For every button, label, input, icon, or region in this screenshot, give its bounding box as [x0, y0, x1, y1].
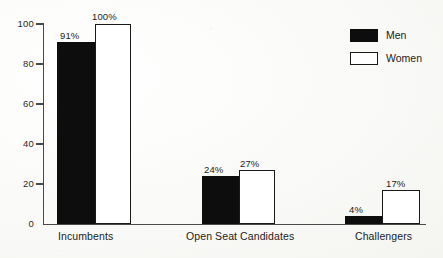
scan-speckle [300, 120, 302, 121]
y-tick-label: 40 [23, 138, 34, 149]
legend-swatch-women-icon [350, 52, 378, 65]
bar-chart: 100 80 60 40 20 0 91% 100% Incumbents 24… [0, 0, 443, 258]
bar-value-incumbents-women: 100% [92, 11, 117, 22]
scan-speckle [210, 28, 212, 30]
y-tick-label: 60 [23, 98, 34, 109]
y-tick-mark [36, 183, 44, 184]
legend-item-men[interactable]: Men [350, 28, 422, 42]
x-axis-line [43, 224, 426, 225]
y-axis-line [43, 23, 44, 225]
category-label-challengers: Challengers [355, 230, 412, 242]
bar-value-open-seat-women: 27% [240, 158, 259, 169]
y-tick-label: 20 [23, 178, 34, 189]
bar-incumbents-men[interactable] [57, 42, 95, 224]
bar-incumbents-women[interactable] [95, 24, 131, 224]
bar-challengers-men[interactable] [345, 216, 382, 224]
bar-value-open-seat-men: 24% [204, 164, 223, 175]
y-tick-mark [36, 143, 44, 144]
bar-value-challengers-men: 4% [349, 204, 363, 215]
legend-swatch-men-icon [350, 29, 378, 42]
category-label-incumbents: Incumbents [58, 230, 113, 242]
legend: Men Women [350, 28, 422, 74]
scan-speckle [60, 250, 63, 251]
legend-label-men: Men [386, 29, 406, 41]
legend-item-women[interactable]: Women [350, 51, 422, 65]
bar-open-seat-men[interactable] [202, 176, 239, 224]
bar-value-challengers-women: 17% [386, 178, 405, 189]
bar-challengers-women[interactable] [382, 190, 420, 224]
y-tick-label: 80 [23, 58, 34, 69]
y-tick-mark [36, 103, 44, 104]
bar-open-seat-women[interactable] [239, 170, 275, 224]
y-tick-mark [36, 23, 44, 24]
category-label-open-seat: Open Seat Candidates [186, 230, 294, 242]
y-tick-mark [36, 63, 44, 64]
legend-label-women: Women [386, 52, 422, 64]
y-tick-label: 100 [18, 18, 34, 29]
y-tick-label: 0 [29, 218, 34, 229]
bar-value-incumbents-men: 91% [60, 30, 79, 41]
